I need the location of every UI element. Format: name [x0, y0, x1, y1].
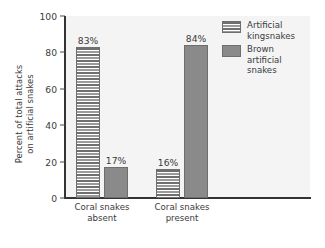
bar-value-label-coral-present-kingsnakes: 16% [148, 157, 188, 168]
legend-item-artificial-kingsnakes[interactable]: Artificial kingsnakes [222, 20, 295, 41]
bar-coral-present-brown-artificial[interactable] [184, 45, 208, 198]
y-tick-mark-0 [60, 198, 65, 199]
y-axis-line [64, 16, 66, 198]
bar-coral-absent-artificial-kingsnakes[interactable] [76, 47, 100, 198]
y-tick-mark-100 [60, 16, 65, 17]
bar-coral-present-artificial-kingsnakes[interactable] [156, 169, 180, 198]
legend-label-brown-artificial-snakes: Brown artificial snakes [247, 44, 282, 76]
x-category-label-coral-snakes-absent: Coral snakes absent [57, 202, 147, 224]
legend-label-artificial-kingsnakes: Artificial kingsnakes [247, 20, 295, 41]
y-tick-mark-40 [60, 125, 65, 126]
legend-swatch-solid-icon [222, 45, 241, 57]
bar-value-label-coral-absent-kingsnakes: 83% [68, 35, 108, 46]
bar-chart: Percent of total attacks on artificial s… [0, 0, 325, 248]
legend-item-brown-artificial-snakes[interactable]: Brown artificial snakes [222, 44, 282, 76]
y-tick-mark-20 [60, 161, 65, 162]
y-tick-label-60: 60 [31, 83, 57, 94]
bar-coral-absent-brown-artificial[interactable] [104, 167, 128, 198]
y-tick-mark-60 [60, 88, 65, 89]
x-category-label-coral-snakes-present: Coral snakes present [137, 202, 227, 224]
y-tick-label-100: 100 [31, 11, 57, 22]
bar-value-label-coral-absent-brown: 17% [96, 155, 136, 166]
y-tick-label-40: 40 [31, 120, 57, 131]
y-tick-label-80: 80 [31, 47, 57, 58]
bar-value-label-coral-present-brown: 84% [176, 33, 216, 44]
y-tick-label-20: 20 [31, 156, 57, 167]
y-tick-label-0: 0 [31, 193, 57, 204]
y-tick-labels: 100 80 60 40 20 0 [31, 0, 57, 248]
legend-swatch-striped-icon [222, 21, 241, 33]
y-tick-mark-80 [60, 52, 65, 53]
